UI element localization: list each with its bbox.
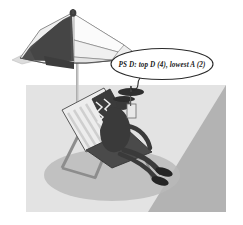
- scene-canvas: PS D: top D (4), lowest A (2): [0, 0, 243, 225]
- drink-glass: [127, 104, 136, 118]
- umbrella-tip: [72, 9, 74, 14]
- cartoon-illustration: PS D: top D (4), lowest A (2): [0, 0, 243, 225]
- speech-bubble-text: PS D: top D (4), lowest A (2): [119, 61, 206, 69]
- figure-hat-icon: [113, 96, 135, 102]
